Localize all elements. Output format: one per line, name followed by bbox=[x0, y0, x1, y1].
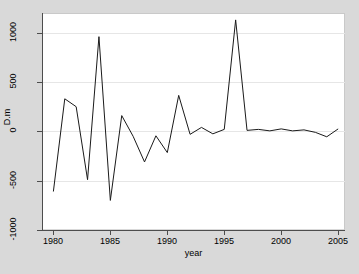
x-tick-label-1995: 1995 bbox=[204, 236, 244, 246]
x-tick-mark-1995 bbox=[224, 231, 225, 235]
x-tick-label-1985: 1985 bbox=[90, 236, 130, 246]
x-tick-mark-2005 bbox=[338, 231, 339, 235]
x-tick-label-2000: 2000 bbox=[261, 236, 301, 246]
y-tick-mark-0 bbox=[37, 131, 42, 132]
x-tick-label-1980: 1980 bbox=[33, 236, 73, 246]
y-tick-mark-500 bbox=[37, 82, 42, 83]
x-axis-line bbox=[42, 230, 345, 231]
x-tick-mark-2000 bbox=[281, 231, 282, 235]
x-tick-mark-1985 bbox=[110, 231, 111, 235]
y-tick-mark--1000 bbox=[37, 230, 42, 231]
y-axis-line bbox=[42, 13, 43, 230]
x-tick-label-2005: 2005 bbox=[318, 236, 358, 246]
y-axis-title: D.m bbox=[2, 97, 12, 137]
x-tick-label-1990: 1990 bbox=[147, 236, 187, 246]
x-axis-title: year bbox=[42, 248, 345, 258]
x-tick-mark-1980 bbox=[53, 231, 54, 235]
chart-plot-svg bbox=[42, 13, 345, 230]
figure-canvas: -1000-50005001000 1980198519901995200020… bbox=[0, 0, 359, 274]
y-tick-mark-1000 bbox=[37, 33, 42, 34]
chart-figure: -1000-50005001000 1980198519901995200020… bbox=[0, 0, 359, 274]
data-series-line bbox=[53, 20, 338, 201]
y-tick-label--1000: -1000 bbox=[8, 209, 18, 249]
y-tick-label-1000: 1000 bbox=[8, 12, 18, 52]
x-tick-mark-1990 bbox=[167, 231, 168, 235]
y-tick-label-500: 500 bbox=[8, 61, 18, 101]
y-tick-mark--500 bbox=[37, 181, 42, 182]
y-tick-label--500: -500 bbox=[8, 160, 18, 200]
